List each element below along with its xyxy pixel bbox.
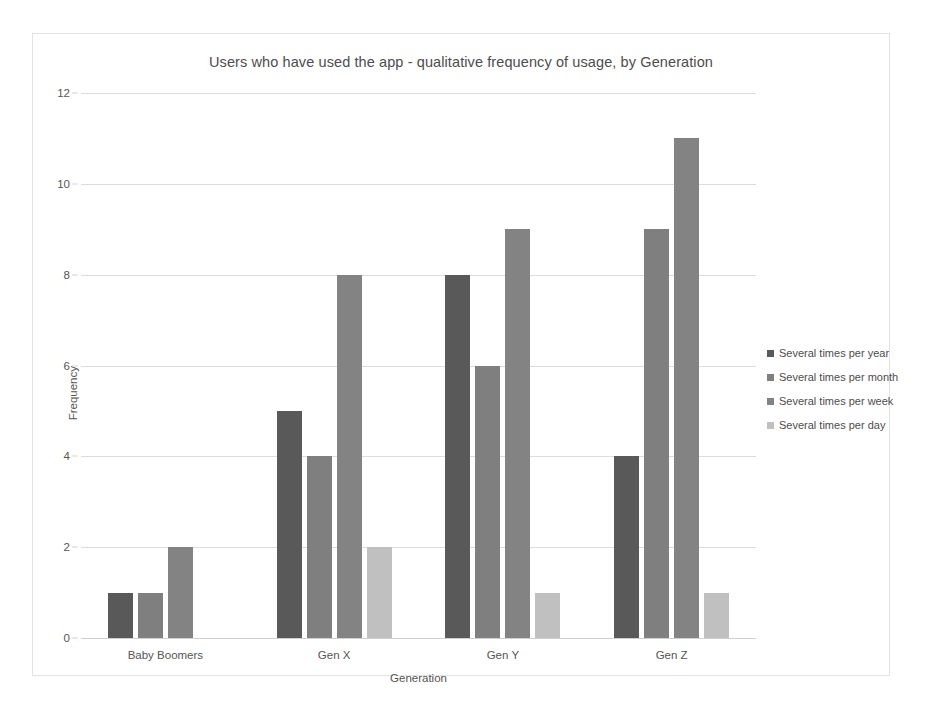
y-axis-tick-label: 8 xyxy=(64,269,70,281)
bar[interactable] xyxy=(445,275,470,638)
bar-group: Gen X xyxy=(250,93,419,638)
x-axis-title: Generation xyxy=(81,672,756,684)
x-axis-category-label: Baby Boomers xyxy=(81,649,250,661)
bar[interactable] xyxy=(505,229,530,638)
bar-group: Gen Y xyxy=(419,93,588,638)
bar-slot xyxy=(704,93,729,638)
bar[interactable] xyxy=(614,456,639,638)
y-axis-tick-label: 10 xyxy=(57,178,70,190)
chart-frame: Users who have used the app - qualitativ… xyxy=(32,33,890,676)
bar[interactable] xyxy=(168,547,193,638)
y-axis-tick-mark xyxy=(72,547,78,548)
bar-slot xyxy=(535,93,560,638)
bar[interactable] xyxy=(674,138,699,638)
bar[interactable] xyxy=(138,593,163,638)
x-axis-category-label: Gen Z xyxy=(587,649,756,661)
chart-title: Users who have used the app - qualitativ… xyxy=(33,54,889,70)
bar[interactable] xyxy=(644,229,669,638)
chart-legend: Several times per yearSeveral times per … xyxy=(767,341,917,437)
bar[interactable] xyxy=(108,593,133,638)
y-axis-tick-mark xyxy=(72,365,78,366)
bar[interactable] xyxy=(367,547,392,638)
legend-item[interactable]: Several times per week xyxy=(767,389,917,413)
y-axis-tick-mark xyxy=(72,183,78,184)
legend-swatch-icon xyxy=(767,398,774,405)
bar-slot xyxy=(307,93,332,638)
legend-label: Several times per month xyxy=(779,371,898,383)
bar[interactable] xyxy=(337,275,362,638)
bar[interactable] xyxy=(475,366,500,639)
bar-group: Gen Z xyxy=(587,93,756,638)
legend-item[interactable]: Several times per day xyxy=(767,413,917,437)
legend-label: Several times per week xyxy=(779,395,893,407)
legend-label: Several times per day xyxy=(779,419,885,431)
legend-swatch-icon xyxy=(767,374,774,381)
legend-swatch-icon xyxy=(767,422,774,429)
gridline xyxy=(81,638,756,639)
y-axis-tick-label: 2 xyxy=(64,541,70,553)
bar-slot xyxy=(168,93,193,638)
bar-slot xyxy=(277,93,302,638)
bar[interactable] xyxy=(535,593,560,638)
y-axis-tick-mark xyxy=(72,93,78,94)
legend-label: Several times per year xyxy=(779,347,889,359)
bar-slot xyxy=(337,93,362,638)
legend-item[interactable]: Several times per month xyxy=(767,365,917,389)
bar-slot xyxy=(644,93,669,638)
x-axis-category-label: Gen Y xyxy=(419,649,588,661)
legend-item[interactable]: Several times per year xyxy=(767,341,917,365)
y-axis-tick-label: 6 xyxy=(64,360,70,372)
bars-layer: Baby BoomersGen XGen YGen Z xyxy=(81,93,756,638)
bar-slot xyxy=(367,93,392,638)
bar-slot xyxy=(138,93,163,638)
y-axis-tick-label: 4 xyxy=(64,450,70,462)
plot-area: Frequency 024681012 Baby BoomersGen XGen… xyxy=(81,93,756,638)
bar-slot xyxy=(198,93,223,638)
bar-slot xyxy=(475,93,500,638)
legend-swatch-icon xyxy=(767,350,774,357)
bar-slot xyxy=(674,93,699,638)
bar[interactable] xyxy=(307,456,332,638)
y-axis-tick-mark xyxy=(72,638,78,639)
bar-slot xyxy=(614,93,639,638)
x-axis-category-label: Gen X xyxy=(250,649,419,661)
y-axis-title: Frequency xyxy=(67,366,79,420)
bar-group: Baby Boomers xyxy=(81,93,250,638)
bar-slot xyxy=(445,93,470,638)
y-axis-tick-label: 0 xyxy=(64,632,70,644)
bar[interactable] xyxy=(704,593,729,638)
y-axis-tick-mark xyxy=(72,274,78,275)
y-axis-tick-mark xyxy=(72,456,78,457)
bar-slot xyxy=(108,93,133,638)
bar[interactable] xyxy=(277,411,302,638)
bar-slot xyxy=(505,93,530,638)
y-axis-tick-label: 12 xyxy=(57,87,70,99)
